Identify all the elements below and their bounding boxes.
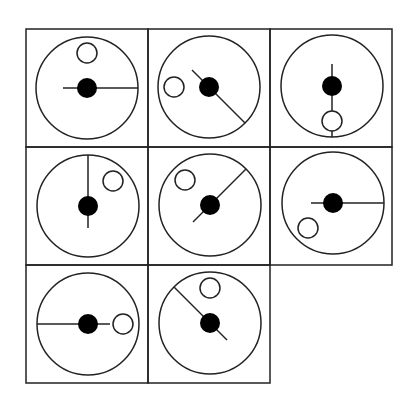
puzzle-cell [148, 147, 270, 265]
black-dot-icon [199, 77, 219, 97]
black-dot-icon [77, 78, 97, 98]
white-circle-icon [77, 43, 97, 63]
white-circle-icon [298, 218, 318, 238]
puzzle-cell [270, 147, 392, 265]
black-dot-icon [322, 76, 342, 96]
radial-line [174, 287, 227, 340]
puzzle-cell [26, 147, 148, 265]
puzzle-cell [148, 265, 270, 383]
puzzle-diagram [0, 0, 414, 403]
black-dot-icon [78, 314, 98, 334]
white-circle-icon [200, 278, 220, 298]
white-circle-icon [175, 170, 195, 190]
puzzle-cell [26, 29, 148, 147]
radial-line [192, 70, 245, 123]
black-dot-icon [78, 196, 98, 216]
black-dot-icon [323, 193, 343, 213]
puzzle-cell [26, 265, 148, 383]
black-dot-icon [200, 313, 220, 333]
white-circle-icon [164, 77, 184, 97]
puzzle-matrix [0, 0, 414, 403]
radial-line [193, 169, 246, 222]
black-dot-icon [200, 195, 220, 215]
white-circle-icon [103, 171, 123, 191]
white-circle-icon [322, 111, 342, 131]
puzzle-cell [148, 29, 270, 147]
white-circle-icon [113, 314, 133, 334]
puzzle-cell [270, 29, 392, 147]
